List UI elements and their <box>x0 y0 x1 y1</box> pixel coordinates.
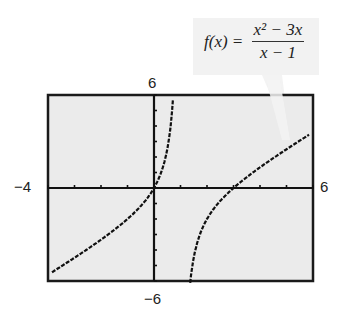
xmin-label: −4 <box>14 178 31 195</box>
formula-denominator: x − 1 <box>252 42 305 63</box>
formula-lhs: f(x) = <box>204 32 243 51</box>
formula-label: f(x) = x² − 3x x − 1 <box>204 20 316 72</box>
ymin-label: −6 <box>144 290 161 307</box>
ymax-label: 6 <box>148 74 156 91</box>
formula-numerator: x² − 3x <box>252 20 305 42</box>
xmax-label: 6 <box>320 178 328 195</box>
